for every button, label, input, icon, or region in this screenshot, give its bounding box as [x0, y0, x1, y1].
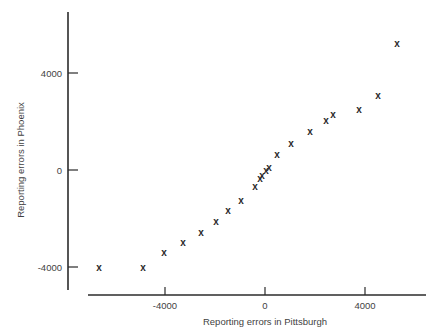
data-point-marker: x	[198, 227, 204, 238]
data-point-marker: x	[225, 205, 231, 216]
data-point-marker: x	[213, 216, 219, 227]
data-point-marker: x	[140, 262, 146, 273]
data-point-marker: x	[394, 38, 400, 49]
data-point-marker: x	[323, 115, 329, 126]
x-axis-title: Reporting errors in Pittsburgh	[203, 316, 327, 327]
data-point-marker: x	[161, 247, 167, 258]
x-tick-label: 4000	[354, 300, 375, 311]
y-axis: -400004000	[38, 12, 78, 290]
data-point-marker: x	[330, 109, 336, 120]
y-tick-label: 0	[57, 165, 62, 176]
data-point-marker: x	[180, 237, 186, 248]
y-tick-label: -4000	[38, 262, 62, 273]
y-axis-title: Reporting errors in Phoenix	[15, 102, 26, 218]
y-axis-ticks: -400004000	[38, 68, 78, 273]
data-point-marker: x	[375, 90, 381, 101]
data-point-marker: x	[266, 162, 272, 173]
y-tick-label: 4000	[41, 68, 62, 79]
data-point-marker: x	[274, 149, 280, 160]
x-tick-label: -4000	[153, 300, 177, 311]
scatter-plot-figure: -400004000 -400004000 xxxxxxxxxxxxxxxxxx…	[0, 0, 445, 335]
x-axis-ticks: -400004000	[153, 287, 376, 311]
data-point-marker: x	[238, 195, 244, 206]
data-point-marker: x	[96, 262, 102, 273]
data-point-marker: x	[307, 126, 313, 137]
data-point-marker: x	[356, 104, 362, 115]
data-point-marker: x	[288, 138, 294, 149]
data-point-group: xxxxxxxxxxxxxxxxxxxxx	[96, 38, 400, 272]
x-axis: -400004000	[88, 287, 426, 311]
plot-canvas: -400004000 -400004000 xxxxxxxxxxxxxxxxxx…	[0, 0, 445, 335]
x-tick-label: 0	[262, 300, 267, 311]
